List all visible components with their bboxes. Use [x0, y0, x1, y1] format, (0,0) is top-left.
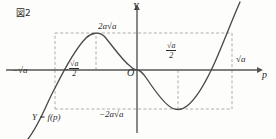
figure-caption: 図2: [16, 9, 31, 18]
dashed-guides-upper: [55, 33, 232, 70]
min-x-fraction: √a2: [166, 42, 176, 61]
curve-name-label: Y = f(p): [32, 113, 61, 122]
y-axis-label: Y: [133, 2, 139, 12]
min-x-denominator: 2: [166, 50, 176, 60]
figure-container: 図2 Y p O 2a√a −2a√a −√a √a Y = f(p) −√a2…: [0, 0, 276, 139]
dashed-guides-lower: [55, 70, 232, 109]
max-x-denominator: 2: [69, 68, 79, 78]
min-x-label: √a2: [166, 42, 176, 61]
root-negative-label: −√a: [12, 66, 28, 75]
max-x-label: −√a2: [63, 60, 79, 79]
max-x-numerator: √a: [69, 60, 79, 68]
min-value-label: −2a√a: [99, 110, 124, 119]
origin-label: O: [127, 68, 134, 78]
max-value-label: 2a√a: [98, 22, 116, 31]
root-positive-label: √a: [236, 55, 245, 64]
min-x-numerator: √a: [166, 42, 176, 50]
p-axis-label: p: [262, 70, 267, 80]
max-x-fraction: √a2: [69, 60, 79, 79]
